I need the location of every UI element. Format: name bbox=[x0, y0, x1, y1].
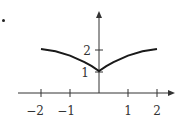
x-axis-arrow-icon bbox=[168, 90, 175, 96]
x-tick-label: 1 bbox=[124, 104, 132, 118]
y-tick-label: 1 bbox=[81, 66, 89, 80]
chart: −2 −1 1 2 1 2 bbox=[0, 0, 189, 135]
x-tick-label: 2 bbox=[153, 104, 161, 118]
y-axis-arrow-icon bbox=[96, 11, 102, 18]
y-tick-label: 2 bbox=[83, 44, 91, 58]
x-tick-label: −1 bbox=[57, 104, 75, 118]
x-tick-label: −2 bbox=[26, 104, 44, 118]
